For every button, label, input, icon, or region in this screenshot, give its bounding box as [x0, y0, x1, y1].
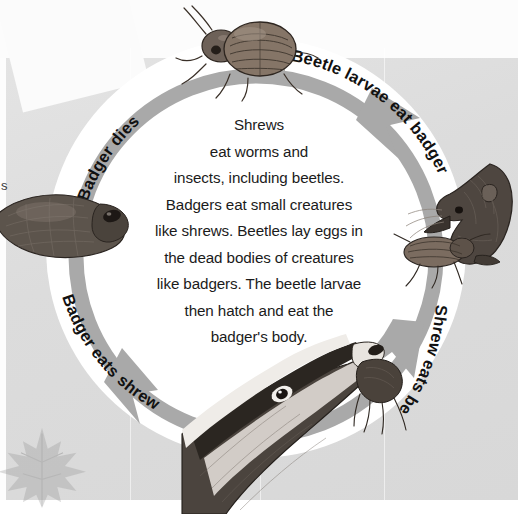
diagram-canvas: s: [0, 0, 518, 514]
dead-badger-illustration: [0, 176, 132, 288]
shrew-eating-beetle-illustration: [398, 158, 518, 290]
cycle-description-text: Shrews eat worms and insects, including …: [128, 112, 390, 351]
beetle-illustration: [172, 4, 320, 102]
badger-eating-shrew-illustration: [182, 338, 406, 514]
